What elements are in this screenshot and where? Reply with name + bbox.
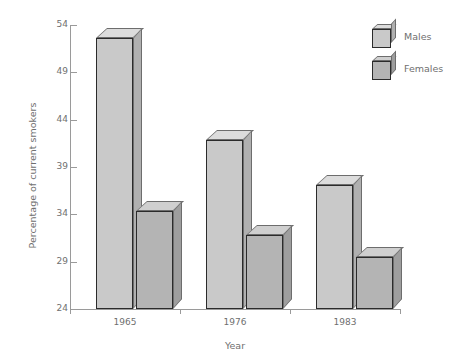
- bar-side-face: [173, 201, 182, 308]
- bar-chart: 54494439342924 Percentage of current smo…: [0, 0, 457, 364]
- bar-front-face: [246, 235, 283, 309]
- legend-swatch-lface: [372, 61, 391, 80]
- legend-swatch-icon: [372, 24, 391, 43]
- y-tick-mark: [70, 25, 77, 26]
- y-tick-label: 34: [44, 209, 68, 218]
- bar-females-1965: [136, 201, 173, 309]
- x-axis-line: [70, 309, 400, 310]
- y-tick-mark: [70, 214, 77, 215]
- bar-front-face: [316, 185, 353, 309]
- y-tick-label: 44: [44, 115, 68, 124]
- legend-label: Males: [404, 31, 431, 42]
- bar-front-face: [356, 257, 393, 309]
- x-tick-mark: [290, 309, 291, 314]
- bar-males-1965: [96, 28, 133, 309]
- x-axis-title: Year: [70, 340, 400, 351]
- y-tick-label: 54: [44, 20, 68, 29]
- y-tick-mark: [70, 72, 77, 73]
- y-tick-mark: [70, 262, 77, 263]
- bar-females-1976: [246, 225, 283, 309]
- x-tick-label-1965: 1965: [90, 317, 160, 327]
- bar-females-1983: [356, 247, 393, 309]
- bar-side-face: [393, 247, 402, 309]
- legend-swatch-lside: [391, 18, 396, 43]
- x-tick-mark: [70, 309, 71, 314]
- bar-males-1983: [316, 175, 353, 309]
- legend-swatch-lside: [391, 50, 396, 75]
- y-tick-label: 39: [44, 162, 68, 171]
- y-tick-label: 24: [44, 304, 68, 313]
- y-axis-title: Percentage of current smokers: [27, 76, 38, 276]
- x-tick-mark: [400, 309, 401, 314]
- y-tick-label: 49: [44, 67, 68, 76]
- x-tick-mark: [180, 309, 181, 314]
- bar-males-1976: [206, 130, 243, 309]
- legend-label: Females: [404, 63, 443, 74]
- bar-front-face: [206, 140, 243, 309]
- x-tick-label-1976: 1976: [200, 317, 270, 327]
- legend-swatch-lface: [372, 29, 391, 48]
- x-tick-label-1983: 1983: [310, 317, 380, 327]
- bar-front-face: [136, 211, 173, 309]
- bar-front-face: [96, 38, 133, 309]
- bar-side-face: [283, 225, 292, 309]
- legend-swatch-icon: [372, 56, 391, 75]
- y-tick-label: 29: [44, 257, 68, 266]
- y-tick-mark: [70, 167, 77, 168]
- y-tick-mark: [70, 120, 77, 121]
